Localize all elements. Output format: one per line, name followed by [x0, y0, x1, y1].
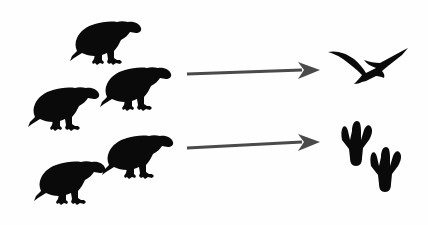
bird-silhouette-middle-right [98, 58, 176, 128]
diagram-canvas [0, 0, 428, 225]
three-toed-footprint-pair [330, 118, 408, 200]
bird-silhouette-middle-left [26, 78, 104, 148]
arrow-right-icon-upper [186, 60, 322, 84]
bird-silhouette-bottom-left [32, 152, 110, 222]
bird-silhouette-bottom-right [100, 126, 178, 196]
pterosaur-silhouette [326, 44, 410, 96]
arrow-right-icon-lower [186, 132, 322, 156]
